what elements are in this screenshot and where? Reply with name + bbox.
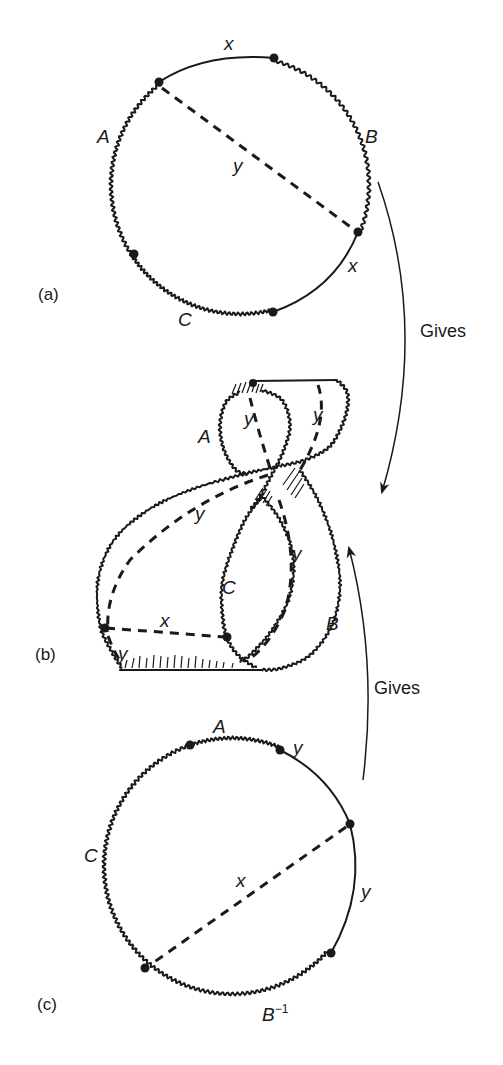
strip-inner-loop	[251, 390, 291, 511]
label-b: B	[326, 613, 339, 634]
edge-c-wavy	[132, 255, 273, 315]
label-a: A	[212, 716, 226, 737]
label-b: B	[365, 126, 378, 147]
arrow-gives-up: Gives	[349, 548, 420, 780]
label-y-top-right: y	[311, 404, 324, 425]
edge-a-wavy	[190, 736, 281, 748]
strip-dashed-y-middle	[108, 475, 268, 632]
label-x-lower-right: x	[347, 255, 359, 276]
vertex-dot	[270, 54, 279, 63]
label-y-middle: y	[193, 503, 206, 524]
label-c: C	[178, 309, 192, 330]
label-x-bottom: x	[159, 610, 171, 631]
strip-b-edge	[262, 470, 341, 671]
edge-y-right	[331, 824, 355, 953]
panel-label-b: (b)	[35, 645, 56, 664]
panel-c: A y C x y B−1 (c)	[37, 716, 372, 1025]
label-y-top-inner: y	[242, 408, 255, 429]
edge-b-inverse-wavy	[149, 951, 329, 996]
panel-a: x A B y x C (a)	[38, 33, 378, 330]
edge-x-lower-right	[273, 232, 358, 312]
vertex-dot	[249, 379, 257, 387]
panel-label-c: (c)	[37, 995, 57, 1014]
vertex-dot	[155, 78, 164, 87]
chord-y-dashed	[162, 88, 352, 228]
mobius-construction-figure: x A B y x C (a) Gives	[0, 0, 503, 1065]
vertex-dot	[141, 964, 150, 973]
label-x-top: x	[223, 33, 235, 54]
label-y-right: y	[359, 881, 372, 902]
vertex-dot	[269, 308, 278, 317]
gives-label-top: Gives	[420, 321, 466, 341]
label-a: A	[96, 126, 110, 147]
vertex-dot	[346, 820, 355, 829]
strip-top-edge	[252, 380, 337, 381]
vertex-dot	[276, 746, 285, 755]
label-c: C	[84, 845, 98, 866]
vertex-dot	[186, 741, 195, 750]
edge-c-wavy	[103, 745, 191, 964]
label-y-chord: y	[231, 155, 244, 176]
panel-label-a: (a)	[38, 285, 59, 304]
label-a: A	[197, 426, 211, 447]
vertex-dot	[223, 633, 232, 642]
label-x-chord: x	[235, 870, 247, 891]
edge-x-top	[159, 57, 274, 82]
gives-label-bottom: Gives	[374, 678, 420, 698]
arrow-gives-down: Gives	[378, 182, 466, 492]
curved-arrow-down	[378, 182, 405, 492]
vertex-dot	[327, 949, 336, 958]
edge-a-wavy	[109, 84, 160, 256]
panel-b: A y y y y C B x y (b)	[35, 379, 349, 671]
vertex-dot	[354, 228, 363, 237]
label-b-base: B	[262, 1004, 275, 1025]
strip-left-lobe-outer	[96, 465, 280, 668]
label-y-top-right: y	[291, 737, 304, 758]
label-b-inverse: B−1	[262, 1002, 289, 1025]
curved-arrow-up	[349, 548, 368, 780]
vertex-dot	[130, 250, 139, 259]
vertex-dot	[101, 624, 110, 633]
label-y-bottom-left: y	[116, 643, 129, 664]
label-b-superscript: −1	[275, 1002, 289, 1016]
edge-y-upper-right	[280, 750, 350, 824]
label-c: C	[222, 577, 236, 598]
chord-x-dashed	[150, 827, 346, 965]
strip-a-loop	[219, 391, 249, 475]
